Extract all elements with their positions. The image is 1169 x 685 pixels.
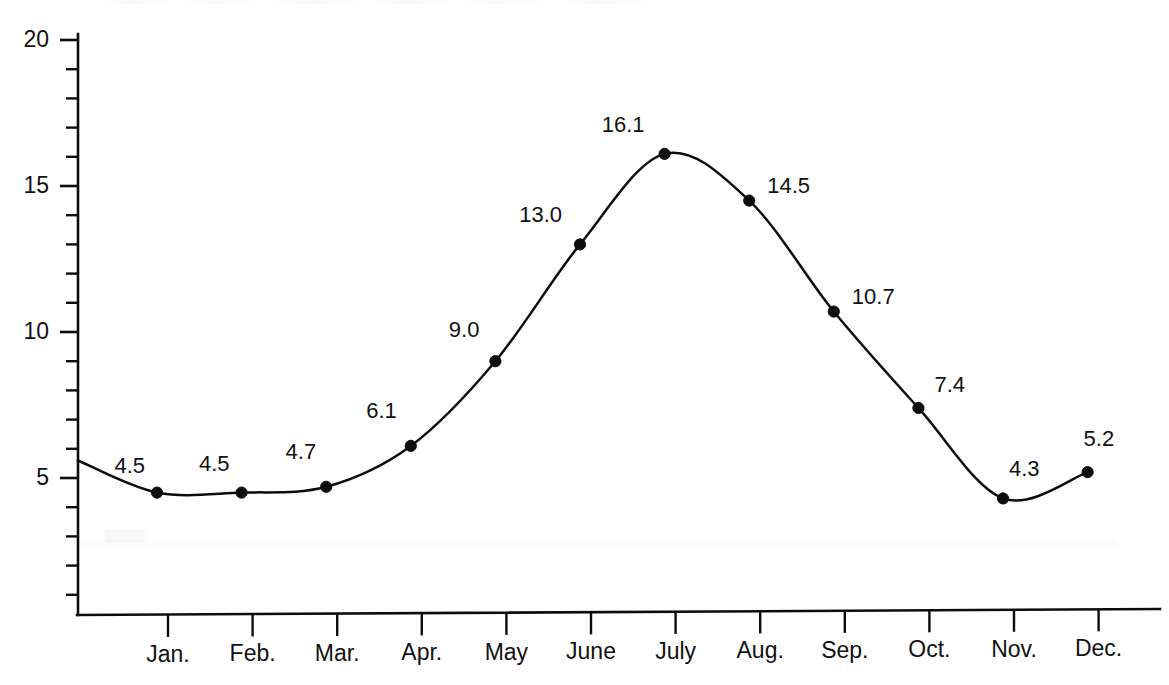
x-tick-label: May [485,639,529,665]
data-point-label: 9.0 [449,317,480,342]
data-point-marker [659,148,670,159]
x-axis-line [77,609,1160,615]
x-tick-label: Dec. [1075,635,1122,661]
data-point-marker [997,493,1008,504]
y-axis-major-ticks [60,40,78,478]
data-point-marker [913,402,924,413]
x-tick-label: Apr. [401,639,442,665]
data-point-label: 5.2 [1084,426,1115,451]
data-point-marker [321,481,332,492]
x-tick-label: Mar. [315,640,360,666]
data-point-label: 4.3 [1009,456,1040,481]
y-axis-tick-labels: 5101520 [23,26,49,490]
chart-canvas: 5101520 Jan.Feb.Mar.Apr.MayJuneJulyAug.S… [0,0,1169,685]
data-point-marker [151,487,162,498]
data-point-marker [490,356,501,367]
data-series-line [78,153,1088,501]
y-tick-label: 20 [23,26,49,52]
data-point-label: 16.1 [602,112,645,137]
data-point-label: 4.5 [199,451,230,476]
data-point-marker [744,195,755,206]
x-tick-label: Oct. [908,636,950,662]
data-point-marker [1082,467,1093,478]
x-tick-label: Nov. [991,636,1037,662]
x-axis-tick-labels: Jan.Feb.Mar.Apr.MayJuneJulyAug.Sep.Oct.N… [146,635,1122,667]
x-tick-label: July [655,638,696,664]
data-point-value-labels: 4.54.54.76.19.013.016.114.510.77.44.35.2 [114,112,1114,482]
x-tick-label: Aug. [737,637,784,663]
data-point-label: 6.1 [366,398,397,423]
x-tick-label: Jan. [146,641,189,667]
data-point-marker [405,440,416,451]
data-point-label: 10.7 [852,284,895,309]
x-tick-label: Feb. [230,640,276,666]
data-point-label: 7.4 [934,372,965,397]
data-point-label: 4.7 [286,439,317,464]
data-point-marker [828,306,839,317]
y-tick-label: 10 [23,318,49,344]
data-point-label: 4.5 [114,453,145,478]
data-point-label: 13.0 [519,202,562,227]
data-point-label: 14.5 [767,173,810,198]
x-tick-label: June [566,638,616,664]
y-tick-label: 5 [36,464,49,490]
data-point-marker [574,239,585,250]
y-tick-label: 15 [23,172,49,198]
x-tick-label: Sep. [821,637,868,663]
data-point-marker [236,487,247,498]
line-chart: 5101520 Jan.Feb.Mar.Apr.MayJuneJulyAug.S… [0,0,1169,685]
